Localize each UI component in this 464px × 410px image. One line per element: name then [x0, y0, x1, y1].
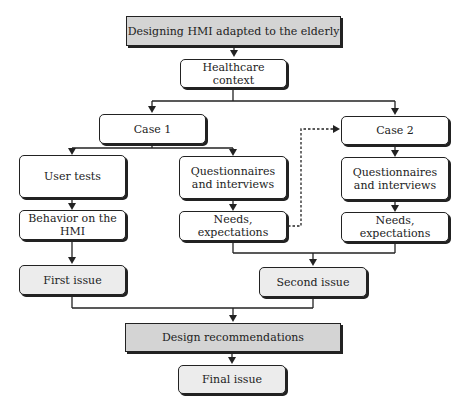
- root-label: Designing HMI adapted to the elderly: [128, 25, 340, 38]
- q1-line2: and interviews: [192, 178, 274, 191]
- behavior-label: Behavior on the HMI: [20, 212, 125, 238]
- first-issue-node: First issue: [19, 265, 126, 295]
- behavior-node: Behavior on the HMI: [19, 210, 126, 240]
- second-issue-node: Second issue: [259, 267, 367, 297]
- root-node: Designing HMI adapted to the elderly: [126, 16, 341, 46]
- design-recommendations-node: Design recommendations: [125, 323, 341, 352]
- case2-label: Case 2: [376, 124, 414, 137]
- final-issue-node: Final issue: [178, 365, 286, 394]
- needs2-node: Needs, expectations: [341, 212, 449, 242]
- questionnaires1-node: Questionnaires and interviews: [179, 156, 287, 199]
- q1-line1: Questionnaires: [191, 165, 275, 178]
- case1-label: Case 1: [134, 123, 172, 136]
- first-issue-label: First issue: [43, 274, 101, 287]
- final-issue-label: Final issue: [202, 373, 262, 386]
- context-label: Healthcare context: [181, 61, 286, 87]
- user-tests-node: User tests: [19, 155, 126, 198]
- needs1-label: Needs, expectations: [180, 213, 286, 239]
- needs1-node: Needs, expectations: [179, 211, 287, 241]
- q2-line2: and interviews: [354, 179, 436, 192]
- healthcare-context-node: Healthcare context: [180, 59, 287, 88]
- case1-node: Case 1: [99, 114, 206, 144]
- second-issue-label: Second issue: [277, 276, 350, 289]
- questionnaires2-node: Questionnaires and interviews: [341, 157, 449, 200]
- q2-line1: Questionnaires: [353, 166, 437, 179]
- case2-node: Case 2: [341, 116, 449, 145]
- user-tests-label: User tests: [44, 170, 101, 183]
- needs2-label: Needs, expectations: [342, 214, 448, 240]
- design-rec-label: Design recommendations: [162, 331, 304, 344]
